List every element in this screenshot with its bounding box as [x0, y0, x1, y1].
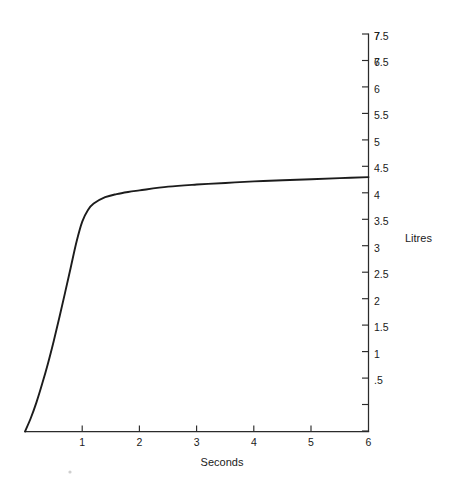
y-tick-label: 6	[374, 83, 380, 95]
x-tick-label: 4	[251, 436, 257, 448]
volume-time-curve	[25, 177, 369, 431]
y-tick-label: 5	[374, 136, 380, 148]
y-tick-label: 1.5	[374, 321, 389, 333]
x-tick-label: 3	[194, 436, 200, 448]
x-axis-ticks	[82, 426, 311, 432]
y-tick-label: .5	[374, 374, 383, 386]
y-tick-label: 2.5	[374, 268, 389, 280]
x-tick-label: 5	[308, 436, 314, 448]
x-tick-label: 2	[136, 436, 142, 448]
volume-time-chart: .5 1 1.5 2 2.5 3 3.5 4 4.5 5 5.5 6 6.5 7…	[0, 0, 458, 488]
y-axis-ticks	[362, 34, 369, 431]
y-tick-label: 4	[374, 189, 380, 201]
x-tick-label: 1	[79, 436, 85, 448]
y-axis-title: Litres	[405, 232, 432, 244]
y-tick-label: 3.5	[374, 215, 389, 227]
y-tick-label: 4.5	[374, 162, 389, 174]
chart-figure: .5 1 1.5 2 2.5 3 3.5 4 4.5 5 5.5 6 6.5 7…	[0, 0, 458, 488]
y-tick-label: 1	[374, 348, 380, 360]
y-tick-label: 3	[374, 242, 380, 254]
y-tick-label: 2	[374, 295, 380, 307]
y-axis-tick-labels: .5 1 1.5 2 2.5 3 3.5 4 4.5 5 5.5 6 6.5 7…	[374, 30, 389, 386]
x-axis-title: Seconds	[201, 456, 244, 468]
y-tick-label: 5.5	[374, 109, 389, 121]
scan-speck	[68, 470, 71, 473]
axes-group	[25, 34, 369, 432]
y-tick-label-7: 7	[374, 56, 380, 68]
x-tick-label: 6	[365, 436, 371, 448]
x-axis-tick-labels: 1 2 3 4 5 6	[79, 436, 371, 448]
y-tick-label-max: 7.5	[374, 30, 389, 42]
